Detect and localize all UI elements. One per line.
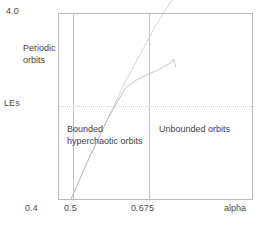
region-label-unbounded-orbits: Unbounded orbits <box>159 124 230 136</box>
y-axis-top-tick-label: 4.0 <box>6 6 19 16</box>
plot-area: Periodic orbits Bounded hyperchaotic orb… <box>58 13 253 200</box>
y-axis-label-les: LEs <box>4 98 20 108</box>
curve-le1 <box>71 0 176 200</box>
region-label-periodic-line2: orbits <box>23 55 45 65</box>
region-label-periodic-orbits: Periodic orbits <box>23 43 56 66</box>
x-axis-title: alpha <box>224 203 246 213</box>
x-axis-tick-label-0-5: 0.5 <box>64 203 77 213</box>
lyapunov-curves <box>59 14 254 201</box>
region-label-bounded-line2: hyperchaotic orbits <box>67 136 143 146</box>
lyapunov-exponent-chart: 4.0 LEs 0.4 0.5 0.675 alpha Periodic orb… <box>0 0 256 225</box>
x-axis-tick-label-0-675: 0.675 <box>131 203 154 213</box>
region-label-bounded-line1: Bounded <box>67 124 103 134</box>
x-axis-tick-label-0-4: 0.4 <box>25 203 38 213</box>
region-label-bounded-hyperchaotic-orbits: Bounded hyperchaotic orbits <box>67 124 143 147</box>
region-label-periodic-line1: Periodic <box>23 43 56 53</box>
